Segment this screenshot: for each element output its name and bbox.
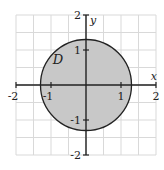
x-tick-label: 1 [118,90,125,103]
region-label: D [52,52,64,67]
y-tick-label: 2 [74,9,81,22]
x-tick-label: -1 [43,90,54,103]
y-tick-label: -1 [70,114,81,127]
y-tick-label: -2 [70,149,81,162]
axes [16,15,156,155]
y-tick-label: 1 [74,44,81,57]
x-axis-label: x [151,70,158,83]
x-tick-label: -2 [8,90,19,103]
coordinate-plane: -2-11221-1-2 x y D [0,0,164,170]
y-axis-label: y [89,14,97,27]
x-tick-label: 2 [153,90,160,103]
